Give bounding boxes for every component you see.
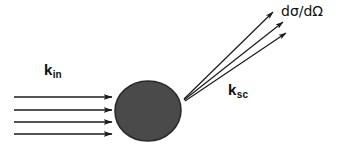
scatterer-blob — [115, 81, 181, 141]
scattered-wavevector-subscript: sc — [237, 89, 248, 100]
scattering-target-group — [115, 81, 181, 141]
scattered-wavevector-symbol: k — [228, 81, 236, 98]
incident-wavevector-subscript: in — [53, 69, 62, 80]
scattering-diagram: kin ksc dσ/dΩ — [0, 0, 341, 146]
incident-beam-group — [14, 97, 112, 134]
differential-cross-section-label: dσ/dΩ — [281, 4, 323, 18]
scattered-wavevector-label: ksc — [228, 82, 247, 97]
incident-wavevector-label: kin — [44, 62, 61, 77]
incident-wavevector-symbol: k — [44, 61, 52, 78]
